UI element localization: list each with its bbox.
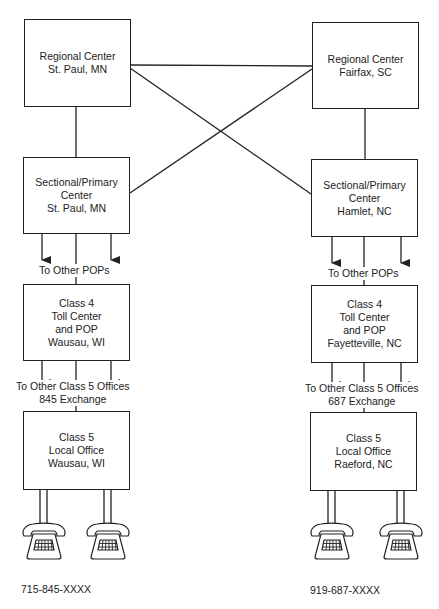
exchange-label: 845 Exchange (16, 393, 130, 406)
box-label: Class 5 (59, 431, 94, 444)
to-other-pops-label-right: To Other POPs (327, 267, 400, 280)
box-location: Wausau, WI (48, 336, 105, 349)
sectional-center-st-paul: Sectional/Primary Center St. Paul, MN (23, 157, 130, 234)
telephone-icon (378, 521, 424, 561)
phone-number-right: 919-687-XXXX (310, 584, 380, 596)
label-line: To Other Class 5 Offices (305, 382, 419, 395)
class4-toll-center-wausau: Class 4 Toll Center and POP Wausau, WI (23, 284, 130, 361)
regional-link-line (130, 65, 312, 66)
box-location: Hamlet, NC (337, 205, 391, 218)
box-label: Local Office (49, 444, 104, 457)
telephone-icon (309, 521, 355, 561)
box-label: Toll Center (51, 310, 101, 323)
sectional-center-hamlet: Sectional/Primary Center Hamlet, NC (311, 159, 418, 237)
box-label: Sectional/Primary (35, 176, 117, 189)
box-label: Center (61, 189, 93, 202)
box-location: St. Paul, MN (47, 202, 106, 215)
box-label: Center (349, 192, 381, 205)
class5-local-office-wausau: Class 5 Local Office Wausau, WI (23, 411, 130, 490)
box-label: Class 5 (346, 432, 381, 445)
box-label: and POP (55, 323, 98, 336)
to-other-pops-label-left: To Other POPs (38, 264, 111, 277)
box-location: Fayetteville, NC (327, 337, 401, 350)
box-location: Raeford, NC (334, 458, 392, 471)
class5-local-office-raeford: Class 5 Local Office Raeford, NC (310, 412, 417, 491)
telephone-icon (21, 521, 67, 561)
box-location: St. Paul, MN (48, 63, 107, 76)
box-location: Fairfax, SC (339, 66, 392, 79)
box-label: Regional Center (40, 50, 116, 63)
to-other-class5-label-right: To Other Class 5 Offices 687 Exchange (304, 382, 420, 408)
box-label: and POP (343, 324, 386, 337)
box-label: Toll Center (339, 311, 389, 324)
telephone-icon (85, 521, 131, 561)
regional-center-st-paul: Regional Center St. Paul, MN (24, 19, 131, 107)
box-label: Local Office (336, 445, 391, 458)
regional-center-fairfax: Regional Center Fairfax, SC (312, 22, 419, 109)
class4-toll-center-fayetteville: Class 4 Toll Center and POP Fayetteville… (311, 285, 418, 363)
phone-number-left: 715-845-XXXX (21, 583, 91, 595)
box-label: Class 4 (59, 297, 94, 310)
box-location: Wausau, WI (48, 457, 105, 470)
box-label: Sectional/Primary (323, 179, 405, 192)
box-label: Class 4 (347, 298, 382, 311)
box-label: Regional Center (328, 53, 404, 66)
label-line: To Other Class 5 Offices (16, 380, 130, 393)
to-other-class5-label-left: To Other Class 5 Offices 845 Exchange (15, 380, 131, 406)
exchange-label: 687 Exchange (305, 395, 419, 408)
